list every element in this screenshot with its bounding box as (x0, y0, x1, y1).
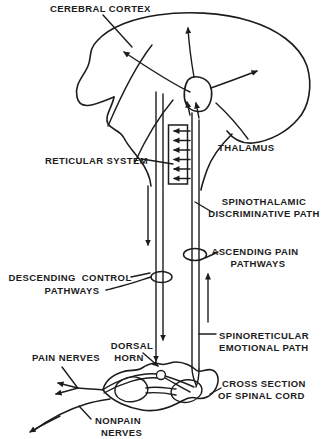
cerebral-cortex-label: CEREBRAL CORTEX (50, 3, 151, 14)
nonpain-nerves-label-line1: NONPAIN (95, 415, 141, 426)
tract-origin-fiber-1 (192, 368, 196, 385)
thalamus-to-cortex-arrow-up (188, 28, 194, 77)
cross-section-label-line2: OF SPINAL CORD (218, 390, 305, 401)
thalamus-to-cortex-arrow-right (211, 71, 257, 88)
descending-control-label-line1: DESCENDING CONTROL (8, 272, 131, 283)
ascending-pain-label-line1: ASCENDING PAIN (211, 246, 298, 257)
pain-nerve-trunk (78, 388, 104, 390)
spinothalamic-label-line1: SPINOTHALAMIC (222, 196, 306, 207)
nonpain-nerves-pointer (79, 406, 91, 419)
cerebral-cortex-outline (76, 13, 309, 143)
ascending-pain-label-line2: PATHWAYS (231, 258, 286, 269)
spinoreticular-label-line2: EMOTIONAL PATH (219, 342, 309, 353)
node-to-tract-fiber-1 (165, 376, 194, 387)
ascending-pathways-ellipse (184, 249, 207, 261)
descending-pathways-ellipse (151, 272, 172, 283)
descending-control-label-line2: PATHWAYS (45, 285, 100, 296)
gray-matter-bridge-top (146, 387, 176, 389)
descending-pathways-pointer-1 (131, 273, 150, 277)
pain-pathway-figure: CEREBRAL CORTEX RETICULAR SYSTEM THALAMU… (0, 0, 323, 439)
reticular-system-box (169, 125, 188, 184)
pain-pathway-diagram: CEREBRAL CORTEX RETICULAR SYSTEM THALAMU… (0, 0, 323, 439)
cerebral-cortex-pointer (103, 15, 132, 47)
brainstem-left-outline (107, 97, 151, 186)
nonpain-nerve-ending (30, 416, 60, 432)
spinoreticular-label-line1: SPINORETICULAR (219, 330, 309, 341)
pain-nerve-fiber-bottom (104, 378, 158, 393)
thalamus-label: THALAMUS (218, 142, 275, 153)
cross-section-label-line1: CROSS SECTION (222, 378, 306, 389)
dorsal-horn-label-line1: DORSAL (111, 340, 154, 351)
pain-nerve-ending-2 (56, 388, 78, 394)
dorsal-horn-label-line2: HORN (114, 352, 144, 363)
spinothalamic-label-line2: DISCRIMINATIVE PATH (208, 208, 320, 219)
spinothalamic-entering-thalamus-line (135, 100, 173, 162)
dorsal-horn-node (157, 371, 166, 380)
nonpain-nerves-label-line2: NERVES (101, 427, 142, 438)
reticular-system-label: RETICULAR SYSTEM (45, 155, 148, 166)
reticular-to-cortex-curve (108, 45, 152, 126)
pain-nerves-label: PAIN NERVES (32, 352, 100, 363)
